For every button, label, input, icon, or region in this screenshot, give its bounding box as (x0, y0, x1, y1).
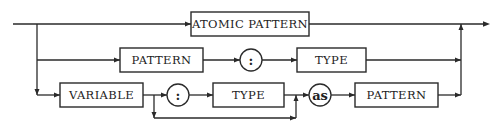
arrow-icon (294, 95, 299, 101)
row-variable: VARIABLE : TYPE as PATTERN (60, 83, 438, 121)
arrow-icon (54, 93, 60, 98)
nonterminal-type: TYPE (213, 83, 284, 107)
arrow-icon (234, 58, 240, 63)
exit-arrow-icon (483, 21, 490, 26)
type-label: TYPE (232, 88, 265, 102)
variable-label: VARIABLE (68, 88, 134, 102)
nonterminal-type: TYPE (297, 48, 366, 72)
pattern-label: PATTERN (132, 53, 192, 67)
arrow-icon (114, 58, 120, 63)
arrow-icon (303, 93, 309, 98)
arrow-icon (207, 93, 213, 98)
arrow-icon (455, 58, 461, 63)
arrow-icon (459, 24, 464, 30)
pattern-label: PATTERN (367, 88, 427, 102)
colon-label: : (249, 53, 254, 68)
arrow-icon (35, 89, 40, 95)
colon-label: : (176, 88, 181, 103)
terminal-colon: : (167, 84, 189, 106)
row-typed-pattern: PATTERN : TYPE (120, 48, 366, 72)
arrow-icon (185, 22, 191, 27)
terminal-colon: : (240, 49, 262, 71)
nonterminal-pattern: PATTERN (120, 48, 203, 72)
as-label: as (312, 88, 328, 103)
arrow-icon (161, 93, 167, 98)
terminal-as: as (309, 84, 331, 106)
arrow-icon (291, 58, 297, 63)
arrow-icon (290, 116, 296, 121)
type-label: TYPE (315, 53, 348, 67)
arrow-icon (152, 112, 157, 118)
syntax-diagram: ATOMIC PATTERN PATTERN : T (0, 0, 497, 131)
nonterminal-atomic-pattern: ATOMIC PATTERN (191, 12, 309, 36)
arrow-icon (455, 93, 461, 98)
nonterminal-pattern: PATTERN (355, 83, 438, 107)
nonterminal-variable: VARIABLE (60, 83, 143, 107)
atomic-pattern-label: ATOMIC PATTERN (191, 17, 308, 31)
arrow-icon (349, 93, 355, 98)
